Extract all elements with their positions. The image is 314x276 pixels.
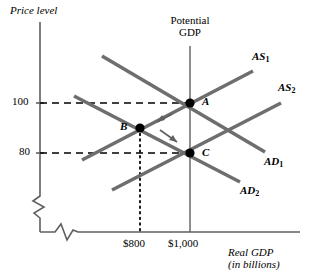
point-a-marker — [185, 98, 194, 107]
curve-label-ad1-text: AD — [264, 155, 279, 167]
aggregate-demand-supply-diagram: Price level Potential GDP 100 80 $800 $1… — [0, 0, 314, 276]
curve-label-as1-sub: 1 — [265, 55, 269, 64]
point-c-marker — [185, 148, 194, 157]
curve-label-ad1-sub: 1 — [279, 160, 283, 169]
y-axis-title: Price level — [10, 5, 57, 17]
y-tick-label-80: 80 — [19, 146, 30, 158]
point-label-c: C — [202, 147, 209, 159]
diagram-canvas — [0, 0, 314, 276]
x-tick-label-800: $800 — [123, 238, 145, 250]
curve-label-as2-sub: 2 — [291, 86, 295, 95]
x-axis-title-line2: (in billions) — [228, 258, 280, 270]
point-b-marker — [135, 123, 144, 132]
curve-label-as1: AS1 — [252, 51, 269, 63]
x-axis-title-line1: Real GDP — [228, 246, 274, 258]
potential-gdp-label: Potential GDP — [148, 15, 232, 38]
x-axis-title: Real GDP (in billions) — [228, 247, 280, 270]
y-tick-label-100: 100 — [12, 96, 29, 108]
potential-gdp-label-line2: GDP — [179, 26, 201, 38]
point-label-b: B — [120, 121, 127, 133]
curve-label-ad2-text: AD — [240, 184, 255, 196]
curve-label-as1-text: AS — [252, 50, 265, 62]
curve-label-ad2-sub: 2 — [255, 189, 259, 198]
y-axis — [33, 22, 44, 232]
curve-label-as2: AS2 — [278, 82, 295, 94]
curve-label-as2-text: AS — [278, 81, 291, 93]
x-tick-label-1000: $1,000 — [168, 238, 198, 250]
point-label-a: A — [202, 96, 209, 108]
curve-label-ad1: AD1 — [264, 156, 283, 168]
curve-ad2 — [74, 96, 240, 182]
curve-label-ad2: AD2 — [240, 185, 259, 197]
potential-gdp-label-line1: Potential — [170, 14, 209, 26]
